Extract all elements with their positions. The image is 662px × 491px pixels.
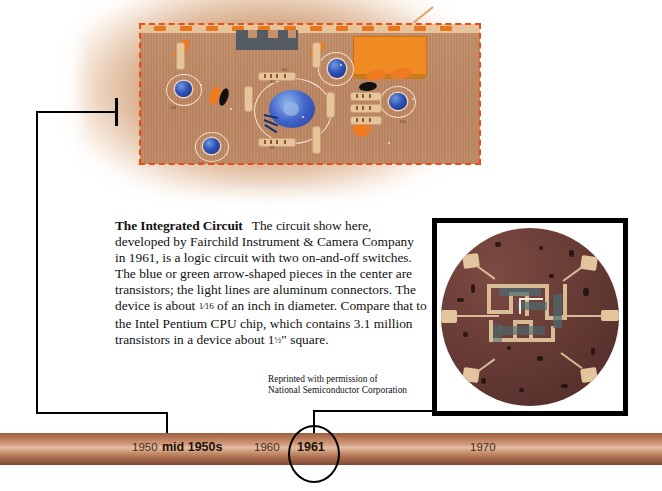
board-edge-pad — [440, 26, 452, 31]
blue-capacitor — [389, 93, 407, 110]
aluminum-trace — [562, 266, 583, 282]
orange-chip-component — [353, 36, 427, 76]
bond-pad — [580, 367, 598, 383]
aluminum-trace — [476, 265, 495, 280]
resistor-vertical — [244, 86, 253, 112]
leader-line-1961-horizontal — [313, 410, 434, 412]
board-edge-pad — [388, 26, 400, 31]
photo-credit-line-2: National Semiconductor Corporation — [268, 385, 433, 396]
solder-dot — [388, 142, 390, 144]
orange-chip-base — [353, 74, 425, 79]
circuit-board-surface: C18 R10 R8 R12 R14 C13 — [140, 24, 480, 164]
diffusion-region — [499, 326, 545, 335]
dark-transistor — [359, 81, 378, 92]
leader-line-board-horizontal — [36, 111, 117, 113]
board-edge-pad — [414, 26, 426, 31]
board-edge-pad — [180, 26, 192, 31]
caption-fraction-sixteenth: 1⁄16 — [199, 298, 214, 314]
chip-notch — [288, 30, 296, 38]
surface-speck — [549, 274, 554, 278]
board-edge-pad — [206, 26, 218, 31]
surface-speck — [561, 384, 568, 388]
surface-speck — [591, 348, 595, 355]
diffusion-region — [553, 294, 562, 328]
highlight-circle-1961 — [288, 425, 340, 483]
resistor — [350, 92, 382, 101]
solder-dot — [412, 98, 414, 100]
solder-dot — [340, 64, 342, 66]
diffusion-region — [493, 324, 502, 342]
board-edge-pad — [310, 26, 322, 31]
resistor-vertical — [326, 92, 335, 118]
surface-speck — [569, 250, 574, 257]
caption-fraction-half: ½ — [275, 332, 282, 348]
circuit-board-panel: C18 R10 R8 R12 R14 C13 — [62, 0, 474, 205]
photo-credit-line-1: Reprinted with permission of — [268, 374, 433, 385]
center-transistor-core — [283, 102, 299, 116]
board-edge-pad — [336, 26, 348, 31]
surface-speck — [495, 242, 501, 247]
resistor — [258, 138, 296, 147]
resistor — [350, 104, 382, 113]
caption-body-part3: ″ square. — [281, 332, 328, 347]
blue-capacitor — [328, 59, 346, 78]
corner-marker-icon — [411, 5, 437, 25]
bond-pad — [580, 255, 598, 271]
surface-speck — [539, 246, 543, 250]
component-designator: R10 — [270, 80, 276, 84]
surface-speck — [537, 356, 543, 361]
resistor-vertical — [176, 42, 185, 70]
caption-paragraph: The Integrated CircuitThe circuit show h… — [115, 218, 427, 349]
aluminum-trace — [519, 298, 521, 314]
aluminum-trace — [476, 358, 495, 373]
blue-capacitor — [203, 138, 220, 154]
aluminum-trace — [455, 315, 499, 317]
component-designator: R14 — [400, 120, 406, 124]
solder-dot — [200, 84, 202, 86]
aluminum-trace — [519, 298, 543, 300]
aluminum-trace — [560, 352, 582, 369]
blue-capacitor — [175, 81, 192, 97]
surface-speck — [583, 288, 589, 296]
resistor-vertical — [312, 126, 321, 154]
component-designator: R8 — [270, 146, 274, 150]
chip-notch — [268, 30, 278, 38]
aluminum-trace — [561, 315, 605, 317]
timeline-label-1960[interactable]: 1960 — [254, 441, 280, 453]
timeline-label-mid1950s[interactable]: mid 1950s — [162, 440, 222, 454]
diffusion-region — [517, 302, 547, 310]
die-photo-image — [437, 223, 623, 411]
timeline-label-1950[interactable]: 1950 — [132, 441, 158, 453]
surface-speck — [481, 378, 486, 384]
solder-dot — [230, 108, 232, 110]
diffusion-region — [499, 288, 541, 296]
surface-speck — [507, 346, 511, 350]
component-designator: C18 — [170, 106, 176, 110]
resistor — [258, 72, 296, 81]
component-designator: R12 — [282, 68, 288, 72]
leader-line-board-down — [36, 111, 38, 414]
resistor-vertical — [312, 42, 321, 68]
component-designator: C13 — [198, 162, 204, 166]
surface-speck — [519, 388, 524, 392]
die-photo-frame — [432, 218, 628, 416]
surface-speck — [463, 332, 468, 337]
photo-credit-block: Reprinted with permission of National Se… — [268, 374, 433, 397]
leader-line-board-bottom — [36, 412, 168, 414]
board-edge-pad — [362, 26, 374, 31]
timeline-label-1970[interactable]: 1970 — [470, 441, 496, 453]
surface-speck — [471, 284, 475, 293]
surface-speck — [457, 298, 464, 302]
resistor — [350, 116, 382, 125]
aluminum-trace — [563, 284, 567, 320]
aluminum-trace — [551, 326, 555, 342]
solder-dot — [302, 116, 304, 118]
caption-heading: The Integrated Circuit — [115, 218, 243, 233]
integrated-circuit-die — [441, 228, 619, 406]
board-edge-pad — [154, 26, 166, 31]
chip-notch — [248, 30, 257, 38]
